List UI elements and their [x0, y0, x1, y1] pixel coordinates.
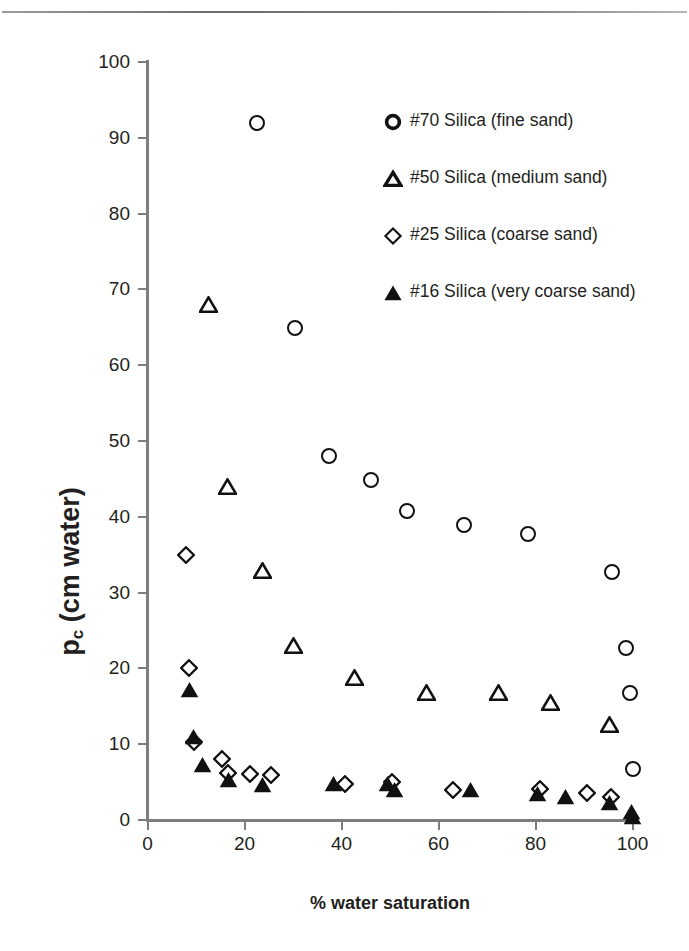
- x-tick-label: 0: [113, 834, 183, 854]
- data-point-circle-open: [618, 640, 634, 656]
- x-tick-label: 20: [210, 834, 280, 854]
- y-tick-label: 30: [84, 583, 130, 602]
- data-point-triangle-filled: [219, 771, 238, 788]
- data-point-circle-open: [456, 517, 472, 533]
- data-point-triangle-open: [417, 684, 436, 701]
- x-tick-mark: [535, 821, 537, 830]
- y-tick-label: 100: [84, 52, 130, 71]
- data-point-diamond-open: [180, 659, 198, 677]
- legend-item-label: #70 Silica (fine sand): [410, 110, 573, 131]
- data-point-triangle-open: [489, 684, 508, 701]
- x-axis-title: % water saturation: [146, 893, 634, 914]
- y-tick-label: 50: [84, 431, 130, 450]
- data-point-circle-open: [321, 448, 337, 464]
- data-point-triangle-open: [253, 562, 272, 579]
- legend-item-n16[interactable]: #16 Silica (very coarse sand): [383, 279, 673, 336]
- y-tick-label: 0: [84, 810, 130, 829]
- data-point-triangle-filled: [253, 776, 272, 793]
- y-tick-label: 90: [84, 128, 130, 147]
- data-point-triangle-filled: [385, 781, 404, 798]
- y-tick-label: 10: [84, 734, 130, 753]
- data-point-triangle-filled: [600, 794, 619, 811]
- legend-marker-icon: [383, 226, 403, 246]
- data-point-circle-open: [363, 472, 379, 488]
- data-point-circle-open: [622, 685, 638, 701]
- data-point-triangle-filled: [556, 788, 575, 805]
- data-point-triangle-filled: [324, 775, 343, 792]
- data-point-triangle-filled: [180, 681, 199, 698]
- y-tick-label: 40: [84, 507, 130, 526]
- y-axis-title-units: (cm water): [55, 487, 85, 630]
- y-axis-title-symbol: p: [55, 639, 85, 656]
- legend-item-n50[interactable]: #50 Silica (medium sand): [383, 165, 673, 222]
- data-point-circle-open: [604, 564, 620, 580]
- y-tick-mark: [138, 516, 147, 518]
- x-tick-label: 60: [404, 834, 474, 854]
- data-point-circle-open: [520, 526, 536, 542]
- y-tick-mark: [138, 440, 147, 442]
- data-point-triangle-filled: [528, 785, 547, 802]
- legend-item-label: #25 Silica (coarse sand): [410, 224, 598, 245]
- data-point-diamond-open: [177, 546, 195, 564]
- y-axis-title-subscript: c: [68, 630, 87, 639]
- data-point-circle-open: [399, 503, 415, 519]
- data-point-triangle-filled: [623, 808, 642, 825]
- legend-marker-icon: [383, 169, 403, 189]
- data-point-circle-open: [287, 320, 303, 336]
- legend-item-n70[interactable]: #70 Silica (fine sand): [383, 108, 673, 165]
- x-tick-mark: [147, 821, 149, 830]
- data-point-triangle-open: [284, 637, 303, 654]
- data-point-diamond-open: [578, 784, 596, 802]
- x-tick-label: 100: [598, 834, 668, 854]
- y-tick-mark: [138, 137, 147, 139]
- y-tick-label: 70: [84, 279, 130, 298]
- chart-legend: #70 Silica (fine sand)#50 Silica (medium…: [383, 108, 673, 336]
- data-point-triangle-filled: [193, 756, 212, 773]
- y-tick-mark: [138, 667, 147, 669]
- x-tick-mark: [341, 821, 343, 830]
- scatter-chart-figure: 0102030405060708090100 020406080100 pc (…: [0, 0, 689, 951]
- y-tick-mark: [138, 364, 147, 366]
- x-tick-label: 40: [307, 834, 377, 854]
- y-tick-mark: [138, 213, 147, 215]
- x-axis-line: [146, 819, 634, 822]
- legend-item-n25[interactable]: #25 Silica (coarse sand): [383, 222, 673, 279]
- data-point-triangle-open: [199, 296, 218, 313]
- x-tick-label: 80: [501, 834, 571, 854]
- y-tick-label: 20: [84, 658, 130, 677]
- y-tick-mark: [138, 61, 147, 63]
- data-point-triangle-filled: [461, 781, 480, 798]
- data-point-triangle-open: [600, 716, 619, 733]
- y-tick-mark: [138, 592, 147, 594]
- y-tick-label: 80: [84, 204, 130, 223]
- legend-marker-icon: [383, 112, 403, 132]
- legend-marker-icon: [383, 283, 403, 303]
- data-point-diamond-open: [444, 781, 462, 799]
- data-point-triangle-filled: [184, 728, 203, 745]
- legend-item-label: #50 Silica (medium sand): [410, 167, 607, 188]
- x-tick-mark: [244, 821, 246, 830]
- x-tick-mark: [438, 821, 440, 830]
- data-point-triangle-open: [218, 478, 237, 495]
- data-point-triangle-open: [345, 669, 364, 686]
- data-point-circle-open: [625, 761, 641, 777]
- y-tick-mark: [138, 743, 147, 745]
- y-tick-mark: [138, 288, 147, 290]
- data-point-circle-open: [249, 115, 265, 131]
- legend-item-label: #16 Silica (very coarse sand): [410, 281, 636, 302]
- y-axis-title: pc (cm water): [55, 442, 86, 702]
- y-tick-label: 60: [84, 355, 130, 374]
- data-point-triangle-open: [541, 694, 560, 711]
